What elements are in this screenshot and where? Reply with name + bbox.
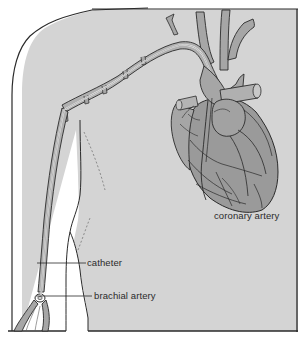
catheterization-diagram: coronary artery catheter brachial artery [0,0,303,347]
label-brachial-artery: brachial artery [94,291,156,301]
label-catheter: catheter [87,258,122,268]
label-coronary-artery: coronary artery [214,211,279,221]
